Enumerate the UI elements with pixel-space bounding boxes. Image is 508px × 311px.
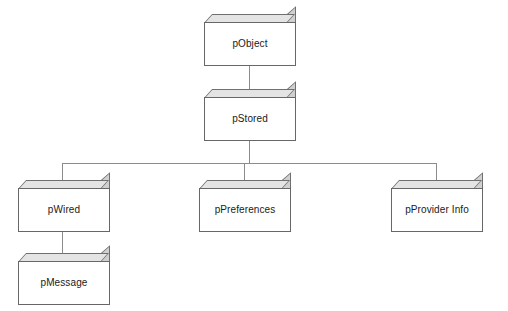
node-front-face: pStored — [204, 97, 296, 141]
node-front-face: pObject — [204, 22, 296, 66]
node-label: pMessage — [41, 278, 88, 288]
node-label: pObject — [232, 39, 267, 49]
node-pproviderinfo[interactable]: pProvider Info — [391, 180, 483, 232]
node-label: pProvider Info — [405, 205, 469, 215]
node-front-face: pProvider Info — [391, 188, 483, 232]
node-ppreferences[interactable]: pPreferences — [199, 180, 291, 232]
edge-pobject-pstored — [249, 66, 250, 89]
edge-bus-horizontal — [62, 163, 436, 164]
node-label: pStored — [232, 114, 268, 124]
edge-pstored-bus — [249, 141, 250, 163]
node-front-face: pPreferences — [199, 188, 291, 232]
node-pobject[interactable]: pObject — [204, 14, 296, 66]
node-pstored[interactable]: pStored — [204, 89, 296, 141]
class-hierarchy-diagram: pObject pStored pWired pPreferences pPro… — [0, 0, 508, 311]
node-label: pWired — [48, 205, 80, 215]
node-front-face: pWired — [18, 188, 110, 232]
node-pmessage[interactable]: pMessage — [18, 253, 110, 305]
node-label: pPreferences — [215, 205, 276, 215]
node-front-face: pMessage — [18, 261, 110, 305]
node-pwired[interactable]: pWired — [18, 180, 110, 232]
